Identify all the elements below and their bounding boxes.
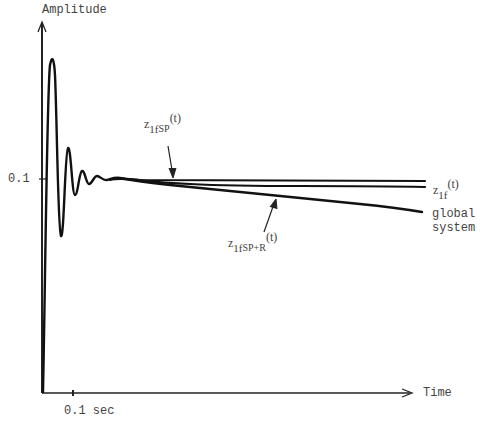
y-tick-label: 0.1 [8,173,30,185]
curve-z1f-sp [110,179,425,181]
annotation-global-line2: system [432,222,475,234]
annotation-sub-1: 1 [149,123,155,135]
annotation-sub-1: 1 [438,189,444,201]
x-tick-label: 0.1 sec [64,405,114,417]
annotation-arrowhead-spr-icon [270,199,277,209]
annotation-t: (t) [448,177,459,191]
annotation-z1f-sp: z1fSP(t) [144,118,181,130]
y-axis-label: Amplitude [42,4,107,16]
annotation-sub-f: f [239,242,243,254]
x-axis-label: Time [423,387,452,399]
curve-global-system [43,59,422,392]
annotation-t: (t) [170,111,181,125]
annotation-sub-f: f [444,189,448,201]
annotation-z1f-spr: z1fSP+R(t) [228,237,277,249]
annotation-sub-1: 1 [233,242,239,254]
annotation-subsub-spr: SP+R [243,242,266,253]
annotation-t: (t) [266,230,277,244]
annotation-arrowhead-sp-icon [169,168,176,178]
annotation-global-line1: global [432,208,475,220]
annotation-subsub-sp: SP [159,123,170,134]
annotation-sub-f: f [155,123,159,135]
chart-canvas [0,0,484,423]
annotation-z1f: z1f(t) [433,184,459,196]
